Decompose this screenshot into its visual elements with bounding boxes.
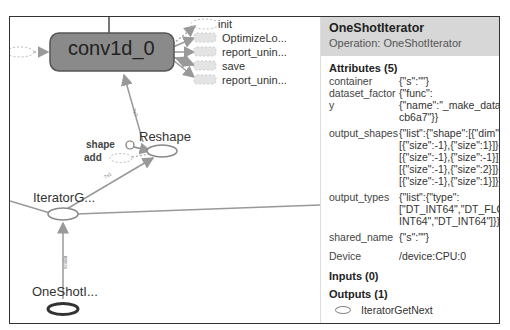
attribute-row: container {"s":""} — [329, 75, 500, 87]
attribute-key: container — [329, 75, 399, 87]
attribute-row: output_shapes {"list":{"shape":[{"dim": … — [329, 127, 500, 187]
panel-title: OneShotIterator — [329, 21, 492, 36]
attribute-key: output_shapes — [329, 127, 399, 187]
panel-body: Attributes (5) container {"s":""} datase… — [321, 56, 500, 316]
svg-text:?x?: ?x? — [131, 107, 139, 117]
attribute-key: output_types — [329, 191, 399, 227]
conv-output-save[interactable]: save — [222, 61, 245, 72]
svg-text:?x1: ?x1 — [103, 171, 113, 180]
panel-operation: Operation: OneShotIterator — [329, 36, 492, 50]
attribute-row: output_types {"list":{"type": ["DT_INT64… — [329, 191, 500, 227]
graph-canvas[interactable]: ?x? ?x1 scalar conv1d_0 init OptimizeLo.… — [10, 17, 320, 323]
attribute-value: {"s":""} — [399, 231, 429, 243]
node-one-shot-iterator[interactable]: OneShotI... — [32, 285, 98, 298]
device-row: Device /device:CPU:0 — [329, 250, 500, 262]
tensorboard-graph-view: ?x? ?x1 scalar conv1d_0 init OptimizeLo.… — [9, 16, 500, 324]
attribute-row: shared_name {"s":""} — [329, 231, 500, 243]
op-node-icon — [335, 306, 351, 314]
inputs-heading: Inputs (0) — [329, 270, 500, 283]
conv-output-report-1[interactable]: report_unin... — [222, 47, 287, 58]
conv-output-report-2[interactable]: report_unin... — [222, 75, 287, 86]
node-reshape[interactable]: Reshape — [139, 130, 191, 143]
graph-edges: ?x? ?x1 scalar — [10, 17, 320, 323]
reshape-input-add[interactable]: add — [84, 153, 102, 163]
attribute-key: shared_name — [329, 231, 399, 243]
conv-output-init[interactable]: init — [218, 19, 232, 30]
node-iterator-get-next[interactable]: IteratorG... — [33, 191, 95, 204]
device-key: Device — [329, 250, 399, 262]
attribute-value: {"list":{"shape":[{"dim": [{"size":-1},{… — [399, 127, 500, 187]
attribute-row: dataset_factory {"func": {"name":"_make_… — [329, 87, 500, 123]
attribute-value: {"list":{"type": ["DT_INT64","DT_FLOA IN… — [399, 191, 500, 227]
attributes-heading: Attributes (5) — [329, 62, 500, 75]
node-info-panel: OneShotIterator Operation: OneShotIterat… — [320, 17, 500, 323]
node-conv1d-0[interactable]: conv1d_0 — [68, 38, 155, 58]
outputs-heading: Outputs (1) — [329, 288, 500, 301]
output-item[interactable]: IteratorGetNext — [329, 304, 500, 316]
svg-text:scalar: scalar — [62, 255, 68, 269]
reshape-input-shape[interactable]: shape — [86, 140, 115, 150]
output-item-label: IteratorGetNext — [361, 304, 433, 316]
attribute-value: {"func": {"name":"_make_datas cb6a7"}} — [399, 87, 500, 123]
device-value: /device:CPU:0 — [399, 250, 466, 262]
conv-output-optimize[interactable]: OptimizeLo... — [222, 33, 287, 44]
attribute-key: dataset_factory — [329, 87, 399, 123]
panel-header: OneShotIterator Operation: OneShotIterat… — [321, 17, 500, 56]
attribute-value: {"s":""} — [399, 75, 429, 87]
